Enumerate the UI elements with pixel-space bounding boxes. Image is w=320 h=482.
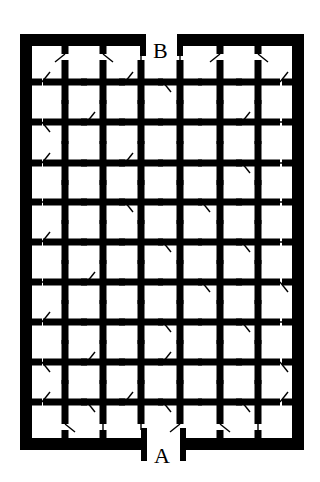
wall-crosses: [26, 40, 298, 444]
label-a-entrance: A: [154, 445, 170, 467]
maze-diagram: [0, 0, 320, 482]
label-b-exit: B: [153, 40, 168, 62]
